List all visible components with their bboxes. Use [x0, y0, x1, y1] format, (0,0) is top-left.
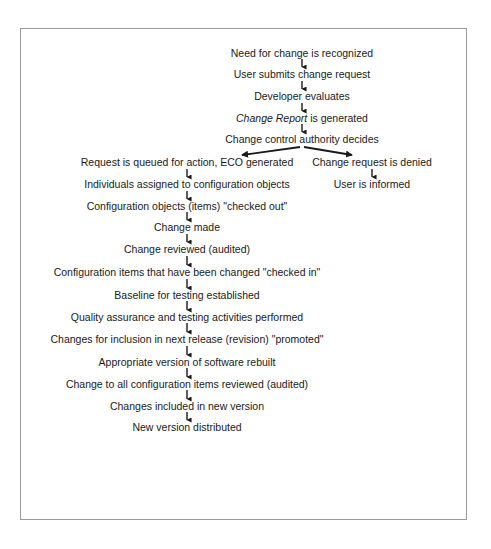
node-checked-out: Configuration objects (items) "checked o…	[87, 200, 288, 212]
node-user-submits-request: User submits change request	[234, 68, 371, 80]
node-checked-in: Configuration items that have been chang…	[54, 266, 321, 278]
node-qa-testing: Quality assurance and testing activities…	[71, 311, 303, 323]
change-report-italic: Change Report	[236, 112, 307, 124]
change-report-rest: is generated	[307, 112, 368, 124]
node-all-items-reviewed: Change to all configuration items review…	[66, 378, 308, 390]
node-request-denied: Change request is denied	[312, 156, 432, 168]
node-change-reviewed: Change reviewed (audited)	[124, 243, 250, 255]
node-authority-decides: Change control authority decides	[225, 133, 379, 145]
node-promoted: Changes for inclusion in next release (r…	[50, 333, 323, 345]
node-changes-included: Changes included in new version	[110, 400, 264, 412]
node-baseline-established: Baseline for testing established	[114, 289, 259, 301]
node-need-recognized: Need for change is recognized	[231, 47, 373, 59]
node-developer-evaluates: Developer evaluates	[254, 90, 350, 102]
node-individuals-assigned: Individuals assigned to configuration ob…	[84, 178, 289, 190]
node-change-made: Change made	[154, 221, 220, 233]
node-request-queued: Request is queued for action, ECO genera…	[81, 156, 293, 168]
node-software-rebuilt: Appropriate version of software rebuilt	[99, 356, 276, 368]
node-change-report-generated: Change Report is generated	[236, 112, 368, 124]
node-user-informed: User is informed	[334, 178, 410, 190]
node-version-distributed: New version distributed	[132, 421, 241, 433]
